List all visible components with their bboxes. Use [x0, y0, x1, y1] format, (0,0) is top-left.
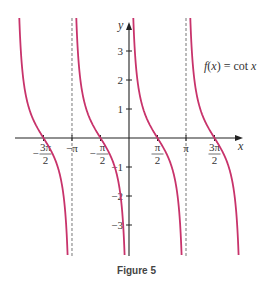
x-tick-label-sign: −: [89, 147, 95, 159]
cotangent-chart: x y 3π2−−ππ2−π2π3π2 321−1−2−3 f(x) = cot…: [0, 0, 273, 302]
x-tick-label-denominator: 2: [43, 154, 49, 166]
axes: x y: [15, 18, 244, 256]
x-tick-label-numerator: 3π: [209, 141, 221, 153]
y-tick-label: 3: [118, 45, 124, 57]
figure-caption: Figure 5: [0, 265, 273, 276]
x-tick-label-sign: −: [32, 147, 38, 159]
y-axis-label: y: [117, 18, 124, 32]
x-ticks: 3π2−−ππ2−π2π3π2: [32, 135, 220, 166]
y-tick-label: 1: [118, 103, 124, 115]
x-tick-label-denominator: 2: [212, 154, 218, 166]
x-axis-label: x: [237, 139, 244, 153]
x-tick-label: −π: [66, 142, 78, 154]
y-tick-label: 2: [118, 74, 124, 86]
y-tick-label: −3: [111, 219, 123, 231]
x-tick-label: π: [183, 142, 189, 154]
x-tick-label-denominator: 2: [155, 154, 161, 166]
y-axis-arrow-icon: [126, 22, 132, 30]
function-label: f(x) = cot x: [204, 59, 257, 73]
x-tick-label-denominator: 2: [100, 154, 106, 166]
